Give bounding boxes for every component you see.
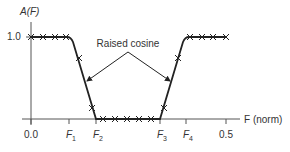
x-tick-label-f3: F3: [157, 129, 167, 142]
x-tick-label-f4: F4: [183, 129, 193, 142]
response-curve: [31, 37, 226, 119]
amplitude-response-diagram: A(F) 1.0 Raised cosine F (norm) 0.0 F1 F…: [0, 0, 290, 152]
annotation-label: Raised cosine: [97, 38, 160, 49]
y-axis-label: A(F): [19, 6, 39, 17]
x-tick-label-f1: F1: [66, 129, 76, 142]
y-tick-label: 1.0: [7, 31, 21, 42]
annotation-arrow-right: [128, 52, 170, 81]
x-axis-label: F (norm): [244, 114, 282, 125]
x-tick-label-f2: F2: [93, 129, 103, 142]
x-tick-label-0: 0.0: [24, 129, 38, 140]
x-tick-label-05: 0.5: [219, 129, 233, 140]
annotation-arrow-left: [87, 52, 128, 81]
